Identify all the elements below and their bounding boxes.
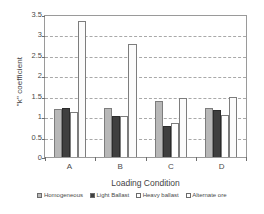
y-tick-label: 3	[38, 32, 42, 40]
legend-item: Light Ballast	[90, 192, 129, 199]
y-tick-label: 1	[38, 113, 42, 121]
legend-swatch-icon	[37, 193, 42, 198]
bar-group-bars	[196, 16, 246, 157]
bar-group	[196, 16, 246, 157]
bar	[163, 126, 171, 157]
legend-label: Homogeneous	[44, 192, 83, 199]
bar	[128, 44, 136, 157]
y-axis-title: "k" coefficient	[15, 32, 24, 132]
x-axis-tick-labels: ABCD	[44, 162, 247, 171]
bar	[62, 108, 70, 157]
bar	[54, 109, 62, 157]
bar-group	[146, 16, 196, 157]
plot-area	[44, 15, 247, 158]
x-tick-label: D	[196, 162, 247, 171]
bar-group-bars	[146, 16, 196, 157]
bar	[221, 115, 229, 157]
bar	[70, 112, 78, 157]
bar	[171, 123, 179, 157]
legend-item: Homogeneous	[37, 192, 83, 199]
bar	[78, 21, 86, 157]
bar-group-bars	[45, 16, 95, 157]
y-axis-tick-labels: 00.511.522.533.5	[24, 15, 42, 158]
bar	[229, 97, 237, 157]
chart-legend: HomogeneousLight BallastHeavy ballastAlt…	[0, 192, 264, 199]
legend-swatch-icon	[90, 193, 95, 198]
bar-chart: "k" coefficient 00.511.522.533.5 ABCD Lo…	[0, 0, 264, 214]
bar-group-bars	[95, 16, 145, 157]
bar	[104, 108, 112, 157]
x-tick-mark	[45, 157, 46, 161]
legend-label: Alternate ore	[192, 192, 226, 199]
bar	[213, 110, 221, 157]
x-tick-label: B	[95, 162, 146, 171]
y-tick-label: 2.5	[32, 52, 42, 60]
bar	[205, 108, 213, 157]
legend-label: Heavy ballast	[143, 192, 179, 199]
y-tick-label: 0.5	[32, 134, 42, 142]
y-tick-label: 3.5	[32, 11, 42, 19]
legend-swatch-icon	[186, 193, 191, 198]
y-tick-label: 2	[38, 73, 42, 81]
bar	[120, 116, 128, 157]
x-tick-mark	[196, 157, 197, 161]
x-tick-mark	[246, 157, 247, 161]
bar	[112, 116, 120, 157]
y-tick-label: 1.5	[32, 93, 42, 101]
legend-item: Alternate ore	[186, 192, 227, 199]
legend-item: Heavy ballast	[136, 192, 179, 199]
bar-group	[45, 16, 95, 157]
x-axis-title: Loading Condition	[44, 178, 247, 188]
bar-group	[95, 16, 145, 157]
x-tick-mark	[146, 157, 147, 161]
bar-groups	[45, 16, 246, 157]
legend-swatch-icon	[136, 193, 141, 198]
bar	[155, 101, 163, 157]
legend-label: Light Ballast	[96, 192, 129, 199]
x-tick-label: C	[146, 162, 197, 171]
x-tick-label: A	[44, 162, 95, 171]
x-tick-mark	[95, 157, 96, 161]
bar	[179, 98, 187, 157]
